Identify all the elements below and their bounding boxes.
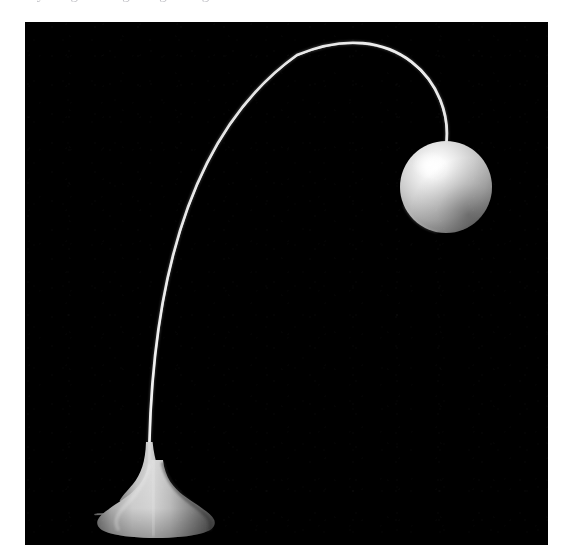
page-root: by original lighting design: [0, 0, 573, 558]
figure-background: [25, 22, 548, 545]
lamp-shade: [400, 141, 492, 233]
caption-strip: by original lighting design: [0, 0, 573, 20]
caption-text: by original lighting design: [28, 0, 219, 3]
lamp-render-canvas: [25, 22, 548, 545]
figure-image: [25, 22, 548, 545]
